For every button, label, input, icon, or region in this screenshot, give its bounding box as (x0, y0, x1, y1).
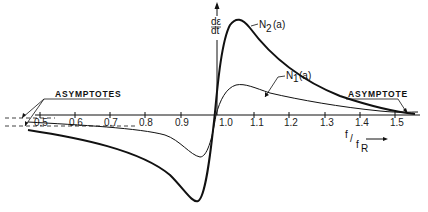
resonance-diagram: 0.5 0.6 0.7 0.8 0.9 1.0 1.1 1.2 1.3 1.4 … (0, 0, 428, 212)
svg-text:ASYMPTOTES: ASYMPTOTES (55, 89, 121, 99)
svg-text:(a): (a) (273, 19, 285, 30)
svg-text:1.0: 1.0 (219, 117, 233, 128)
x-axis-label: f / f R (345, 129, 388, 154)
y-arrow-icon (215, 2, 220, 9)
svg-text:R: R (361, 143, 368, 154)
svg-text:f: f (356, 139, 359, 150)
svg-text:dt: dt (211, 25, 220, 36)
svg-text:1.4: 1.4 (355, 117, 369, 128)
svg-text:/: / (350, 133, 353, 144)
svg-text:1.5: 1.5 (390, 117, 404, 128)
svg-text:2: 2 (266, 23, 272, 34)
curve-n2 (28, 20, 415, 202)
svg-text:1.2: 1.2 (284, 117, 298, 128)
svg-text:f: f (345, 129, 348, 140)
y-axis-label: dε dt (211, 16, 222, 36)
svg-text:(a): (a) (299, 70, 311, 81)
curve-n2-label: N 2 (a) (251, 19, 285, 34)
svg-text:1.3: 1.3 (320, 117, 334, 128)
svg-text:0.9: 0.9 (175, 117, 189, 128)
svg-text:0.8: 0.8 (139, 117, 153, 128)
svg-text:1.1: 1.1 (250, 117, 264, 128)
svg-text:ASYMPTOTE: ASYMPTOTE (348, 89, 408, 99)
